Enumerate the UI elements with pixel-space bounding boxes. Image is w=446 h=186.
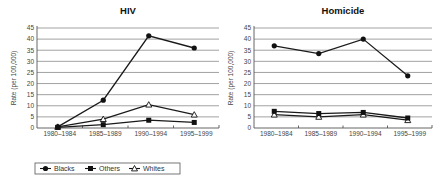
x-tick-label: 1995–1999: [393, 130, 426, 137]
legend-label: Blacks: [54, 165, 75, 172]
legend: BlacksOthersWhites: [35, 163, 180, 174]
series-line: [274, 39, 408, 76]
data-point-filled-square: [272, 109, 277, 114]
data-point-filled-circle: [272, 43, 277, 48]
data-point-filled-square: [101, 122, 106, 127]
y-tick-label: 25: [27, 69, 35, 76]
data-point-filled-circle: [55, 124, 60, 129]
x-tick-label: 1995–1999: [180, 130, 213, 137]
x-tick-label: 1990–1994: [134, 130, 167, 137]
data-point-filled-square: [192, 120, 197, 125]
x-tick-label: 1990–1994: [349, 130, 382, 137]
chart-title: HIV: [120, 5, 137, 16]
homicide-chart: Homicide0510152025303540451980–19841985–…: [227, 5, 432, 137]
legend-label: Others: [99, 165, 121, 172]
y-tick-label: 40: [27, 35, 35, 42]
data-point-open-triangle: [146, 102, 152, 107]
filled-square-icon: [88, 166, 93, 171]
data-point-filled-circle: [146, 33, 151, 38]
series-blacks: [55, 33, 197, 129]
y-tick-label: 30: [244, 58, 252, 65]
chart-title: Homicide: [322, 5, 365, 16]
y-tick-label: 45: [27, 24, 35, 31]
y-tick-label: 35: [244, 47, 252, 54]
legend-label: Whites: [143, 165, 165, 172]
x-tick-label: 1985–1989: [304, 130, 337, 137]
data-point-filled-square: [316, 111, 321, 116]
hiv-chart: HIV0510152025303540451980–19841985–19891…: [10, 5, 219, 137]
figure: HIV0510152025303540451980–19841985–19891…: [0, 0, 446, 186]
series-line: [58, 105, 195, 127]
y-tick-label: 0: [30, 124, 34, 131]
data-point-filled-circle: [192, 45, 197, 50]
y-tick-label: 5: [247, 113, 251, 120]
y-tick-label: 15: [244, 91, 252, 98]
legend-item-blacks: Blacks: [40, 165, 75, 172]
data-point-filled-circle: [361, 37, 366, 42]
y-tick-label: 30: [27, 58, 35, 65]
filled-circle-icon: [43, 166, 48, 171]
y-tick-label: 20: [244, 80, 252, 87]
data-point-filled-square: [361, 110, 366, 115]
y-tick-label: 0: [247, 124, 251, 131]
series-others: [272, 109, 411, 121]
data-point-filled-circle: [405, 73, 410, 78]
data-point-filled-circle: [316, 51, 321, 56]
y-axis-label: Rate (per 100,000): [10, 51, 18, 106]
y-tick-label: 25: [244, 69, 252, 76]
data-point-filled-square: [405, 116, 410, 121]
axes: [37, 26, 219, 128]
y-axis-label: Rate (per 100,000): [227, 51, 235, 106]
x-tick-label: 1980–1984: [260, 130, 293, 137]
x-tick-label: 1985–1989: [89, 130, 122, 137]
data-point-filled-circle: [101, 98, 106, 103]
data-point-filled-square: [146, 118, 151, 123]
y-tick-label: 5: [30, 113, 34, 120]
legend-item-whites: Whites: [129, 165, 165, 172]
y-tick-label: 20: [27, 80, 35, 87]
y-tick-label: 35: [27, 47, 35, 54]
y-tick-label: 10: [244, 102, 252, 109]
x-tick-label: 1980–1984: [43, 130, 76, 137]
y-tick-label: 45: [244, 24, 252, 31]
y-tick-label: 15: [27, 91, 35, 98]
y-tick-label: 10: [27, 102, 35, 109]
y-tick-label: 40: [244, 35, 252, 42]
series-line: [58, 36, 195, 127]
